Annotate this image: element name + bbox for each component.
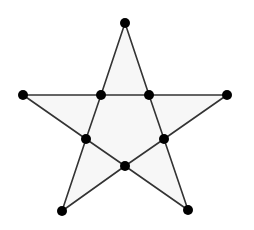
node-outer-top [120, 18, 130, 28]
node-inner-bottom [120, 161, 130, 171]
node-outer-right [222, 90, 232, 100]
node-inner-top-left [96, 90, 106, 100]
node-inner-right [159, 134, 169, 144]
pentagram-diagram [0, 0, 254, 230]
node-inner-top-right [144, 90, 154, 100]
node-outer-left [18, 90, 28, 100]
node-outer-bottom-right [183, 205, 193, 215]
node-outer-bottom-left [57, 206, 67, 216]
node-inner-left [81, 134, 91, 144]
